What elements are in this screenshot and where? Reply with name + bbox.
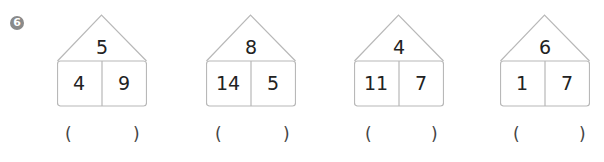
answer-blank-close: )	[133, 124, 140, 144]
house-top-number: 8	[229, 36, 273, 58]
number-house-2: 8 14 5	[206, 14, 296, 108]
answer-blank-open: (	[65, 124, 72, 144]
answer-blank-open: (	[215, 124, 222, 144]
house-left-number: 14	[206, 72, 250, 94]
answer-blank-close: )	[431, 124, 438, 144]
house-top-number: 4	[377, 36, 421, 58]
answer-blank-close: )	[283, 124, 290, 144]
answer-blank-open: (	[365, 124, 372, 144]
house-right-number: 5	[251, 72, 295, 94]
number-house-3: 4 11 7	[354, 14, 444, 108]
answer-blank-close: )	[579, 124, 586, 144]
house-top-number: 5	[80, 36, 124, 58]
number-house-4: 6 1 7	[500, 14, 590, 108]
answer-blank-open: (	[513, 124, 520, 144]
problem-number-badge: 6	[10, 16, 24, 30]
house-right-number: 7	[545, 72, 589, 94]
house-left-number: 4	[57, 72, 101, 94]
number-house-1: 5 4 9	[57, 14, 147, 108]
house-left-number: 11	[354, 72, 398, 94]
house-right-number: 7	[399, 72, 443, 94]
house-right-number: 9	[102, 72, 146, 94]
house-left-number: 1	[500, 72, 544, 94]
house-top-number: 6	[523, 36, 567, 58]
